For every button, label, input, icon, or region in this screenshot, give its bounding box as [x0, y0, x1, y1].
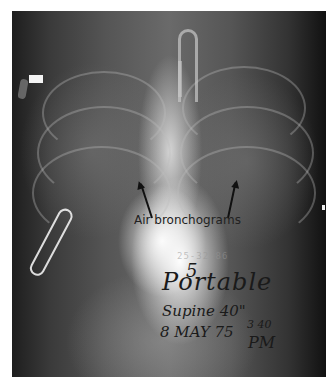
endotracheal-tube-tip — [178, 61, 182, 97]
film-stamp: 25-32-86 — [177, 251, 228, 261]
air-bronchograms-label: Air bronchograms — [134, 213, 241, 227]
handwritten-supine: Supine 40" — [162, 302, 246, 320]
handwritten-meridiem: PM — [248, 333, 275, 352]
ecg-lead-shadow — [17, 78, 28, 99]
handwritten-portable: Portable — [162, 268, 272, 296]
ecg-lead-clip — [29, 75, 43, 83]
side-marker — [322, 205, 325, 210]
arrow-right-head — [231, 179, 240, 188]
handwritten-date: 8 MAY 75 — [160, 323, 234, 341]
handwritten-time: 3 40 — [247, 318, 272, 331]
